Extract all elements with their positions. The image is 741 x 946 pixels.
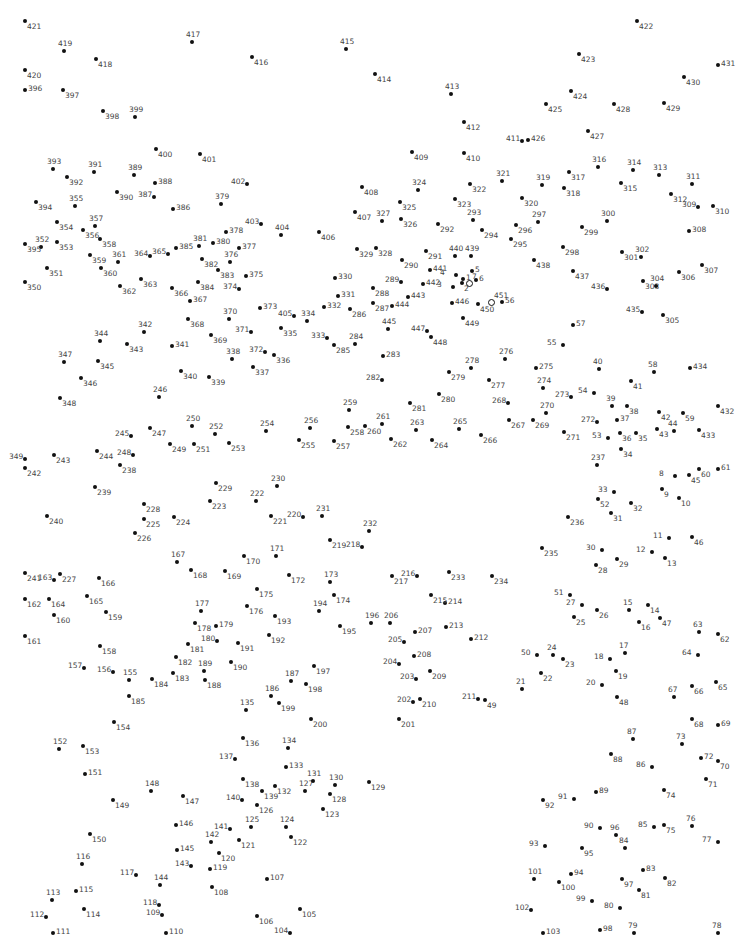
dot-number-label: 379 xyxy=(215,193,229,201)
puzzle-dot xyxy=(360,545,364,549)
puzzle-dot xyxy=(269,694,273,698)
puzzle-dot xyxy=(292,314,296,318)
puzzle-dot xyxy=(716,63,720,67)
dot-number-label: 65 xyxy=(718,684,728,692)
dot-number-label: 46 xyxy=(694,539,704,547)
dot-number-label: 269 xyxy=(535,422,549,430)
dot-number-label: 36 xyxy=(622,435,632,443)
puzzle-dot xyxy=(680,742,684,746)
dot-number-label: 353 xyxy=(59,244,73,252)
dot-number-label: 308 xyxy=(692,226,706,234)
dot-number-label: 175 xyxy=(259,591,273,599)
puzzle-dot xyxy=(171,207,175,211)
dot-number-label: 137 xyxy=(219,753,233,761)
puzzle-dot xyxy=(228,827,232,831)
puzzle-dot xyxy=(245,182,249,186)
puzzle-dot xyxy=(127,678,131,682)
puzzle-dot xyxy=(132,173,136,177)
dot-number-label: 363 xyxy=(143,281,157,289)
puzzle-dot xyxy=(73,204,77,208)
dot-number-label: 374 xyxy=(223,283,237,291)
puzzle-dot xyxy=(595,463,599,467)
dot-number-label: 13 xyxy=(667,560,677,568)
dot-number-label: 162 xyxy=(27,601,41,609)
puzzle-dot xyxy=(444,625,448,629)
puzzle-dot xyxy=(469,366,473,370)
dot-number-label: 217 xyxy=(394,578,408,586)
dot-number-label: 445 xyxy=(382,318,396,326)
dot-number-label: 203 xyxy=(400,673,414,681)
puzzle-dot xyxy=(311,779,315,783)
dot-number-label: 387 xyxy=(138,191,152,199)
puzzle-dot xyxy=(551,653,555,657)
dot-number-label: 251 xyxy=(196,446,210,454)
dot-number-label: 410 xyxy=(466,155,480,163)
puzzle-dot xyxy=(52,578,56,582)
puzzle-dot xyxy=(153,181,157,185)
puzzle-dot xyxy=(488,299,495,306)
dot-number-label: 87 xyxy=(627,728,637,736)
dot-number-label: 297 xyxy=(532,211,546,219)
dot-number-label: 448 xyxy=(433,339,447,347)
dot-number-label: 432 xyxy=(720,408,734,416)
puzzle-dot xyxy=(451,285,455,289)
puzzle-dot xyxy=(640,310,644,314)
dot-number-label: 79 xyxy=(628,922,638,930)
puzzle-dot xyxy=(320,514,324,518)
dot-number-label: 164 xyxy=(51,601,65,609)
dot-number-label: 349 xyxy=(9,453,23,461)
dot-number-label: 371 xyxy=(235,326,249,334)
puzzle-dot xyxy=(188,299,192,303)
dot-number-label: 62 xyxy=(720,636,730,644)
dot-number-label: 403 xyxy=(245,218,259,226)
puzzle-dot xyxy=(233,757,237,761)
dot-number-label: 407 xyxy=(357,214,371,222)
dot-number-label: 119 xyxy=(213,864,227,872)
dot-number-label: 191 xyxy=(240,645,254,653)
dot-number-label: 170 xyxy=(246,558,260,566)
dot-number-label: 142 xyxy=(205,831,219,839)
dot-number-label: 63 xyxy=(693,621,703,629)
puzzle-dot xyxy=(152,195,156,199)
dot-number-label: 76 xyxy=(686,815,696,823)
dot-number-label: 165 xyxy=(89,598,103,606)
dot-number-label: 301 xyxy=(624,254,638,262)
dot-number-label: 188 xyxy=(207,682,221,690)
puzzle-dot xyxy=(142,330,146,334)
dot-number-label: 67 xyxy=(668,686,678,694)
dot-number-label: 68 xyxy=(694,721,704,729)
dot-number-label: 41 xyxy=(633,383,643,391)
dot-number-label: 323 xyxy=(457,201,471,209)
dot-number-label: 331 xyxy=(341,291,355,299)
dot-number-label: 88 xyxy=(613,756,623,764)
dot-number-label: 375 xyxy=(249,271,263,279)
puzzle-dot xyxy=(406,295,410,299)
dot-number-label: 227 xyxy=(62,576,76,584)
dot-number-label: 378 xyxy=(229,227,243,235)
dot-number-label: 91 xyxy=(558,793,568,801)
dot-number-label: 328 xyxy=(378,250,392,258)
dot-number-label: 148 xyxy=(145,780,159,788)
puzzle-dot xyxy=(650,765,654,769)
dot-number-label: 86 xyxy=(636,761,646,769)
puzzle-dot xyxy=(572,797,576,801)
dot-number-label: 430 xyxy=(686,79,700,87)
dot-number-label: 70 xyxy=(720,763,730,771)
dot-number-label: 81 xyxy=(641,892,651,900)
dot-number-label: 406 xyxy=(321,234,335,242)
dot-number-label: 57 xyxy=(576,320,586,328)
puzzle-dot xyxy=(598,826,602,830)
dot-number-label: 394 xyxy=(38,204,52,212)
puzzle-dot xyxy=(380,422,384,426)
dot-number-label: 265 xyxy=(453,418,467,426)
puzzle-dot xyxy=(500,179,504,183)
puzzle-dot xyxy=(157,903,161,907)
puzzle-dot xyxy=(175,560,179,564)
dot-number-label: 83 xyxy=(646,865,656,873)
puzzle-dot xyxy=(50,898,54,902)
dot-number-label: 7 xyxy=(472,273,477,281)
puzzle-dot xyxy=(571,323,575,327)
puzzle-dot xyxy=(421,282,425,286)
dot-number-label: 312 xyxy=(673,196,687,204)
puzzle-dot xyxy=(149,789,153,793)
